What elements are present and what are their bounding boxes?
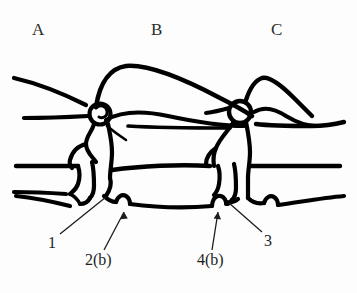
figure-container: A B C 1 2(b) 4(b) 3 [0,0,357,293]
callout-label-2b: 2(b) [85,252,112,268]
central-rib-lower-shadow-line [128,126,230,128]
region-label-c: C [271,21,282,38]
left-upper-rib-inferior-edge [24,116,88,118]
region-label-b: B [151,21,162,38]
left-inferior-long-line [14,192,66,194]
callout-label-4b: 4(b) [197,252,224,268]
callout-label-3: 3 [264,233,272,249]
region-label-a: A [32,21,44,38]
callout-label-1: 1 [48,235,56,251]
